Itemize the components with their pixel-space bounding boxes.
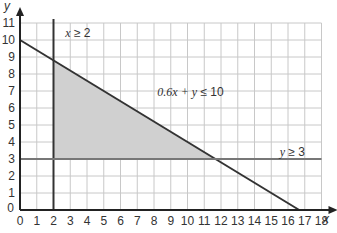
x-tick-label: 15 [265, 214, 279, 228]
tick-labels: 0123456789101112131415161718123456789101… [2, 16, 329, 228]
x-tick-label: 5 [100, 214, 107, 228]
x-tick-label: 9 [167, 214, 174, 228]
x-tick-label: 1 [33, 214, 40, 228]
x-tick-label: 0 [17, 214, 24, 228]
y-tick-label: 7 [8, 84, 15, 98]
x-tick-label: 2 [50, 214, 57, 228]
y-tick-label: 4 [8, 135, 15, 149]
x-tick-label: 10 [181, 214, 195, 228]
constraint-label-x-ge-2: x ≥ 2 [64, 26, 91, 40]
x-tick-label: 11 [198, 214, 211, 228]
x-tick-label: 4 [84, 214, 91, 228]
y-tick-label: 1 [8, 186, 15, 200]
x-tick-label: 16 [281, 214, 295, 228]
x-tick-label: 6 [117, 214, 124, 228]
y-tick-label: 8 [8, 67, 15, 81]
y-tick-label: 2 [8, 169, 15, 183]
x-tick-label: 13 [231, 214, 245, 228]
y-axis-arrow-icon [16, 7, 24, 16]
y-tick-label: 0 [7, 201, 14, 215]
x-tick-label: 17 [298, 214, 312, 228]
constraint-label-line: 0.6x + y ≤ 10 [157, 85, 224, 99]
x-axis-arrow-icon [329, 206, 337, 214]
linear-programming-chart: 0123456789101112131415161718123456789101… [0, 0, 337, 233]
y-tick-label: 3 [8, 152, 15, 166]
y-tick-label: 5 [8, 118, 15, 132]
x-tick-label: 12 [214, 214, 228, 228]
y-tick-label: 10 [2, 33, 16, 47]
y-tick-label: 9 [8, 50, 15, 64]
x-axis-label: x [322, 212, 330, 226]
constraint-label-y-ge-3: y ≥ 3 [279, 145, 306, 159]
x-tick-label: 8 [151, 214, 158, 228]
y-axis-label: y [3, 0, 11, 13]
x-tick-label: 7 [134, 214, 141, 228]
x-tick-label: 14 [248, 214, 262, 228]
y-tick-label: 11 [3, 16, 16, 30]
y-tick-label: 6 [8, 101, 15, 115]
x-tick-label: 3 [67, 214, 74, 228]
